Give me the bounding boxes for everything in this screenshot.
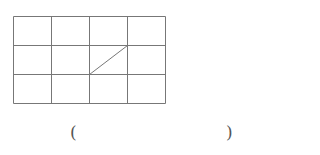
answer-left-paren: ( [70, 124, 77, 141]
answer-blank[interactable] [82, 124, 222, 142]
answer-right-paren: ) [226, 124, 233, 141]
diagonal-segment [90, 46, 128, 75]
